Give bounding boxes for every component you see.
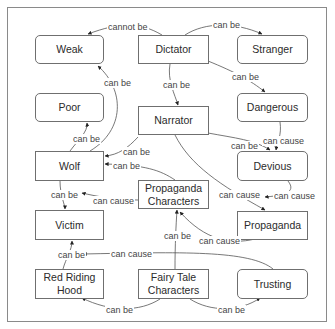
node-narrator[interactable]: Narrator [138, 106, 209, 135]
node-weak[interactable]: Weak [35, 35, 104, 64]
node-label: Fairy Tale Characters [139, 271, 208, 297]
edge-label: can be [230, 141, 259, 151]
node-label: Dangerous [247, 101, 298, 114]
edge-label: can be [212, 20, 241, 30]
node-label: Victim [55, 219, 83, 232]
node-label: Dictator [155, 43, 191, 56]
edge-label: can be [57, 250, 86, 260]
edge-label: can be [122, 147, 151, 157]
node-red-riding-hood[interactable]: Red Riding Hood [35, 269, 104, 299]
node-wolf[interactable]: Wolf [35, 151, 104, 181]
node-label: Wolf [59, 160, 80, 173]
edge-label: can cause [218, 190, 261, 200]
node-label: Propaganda [244, 219, 301, 232]
node-propaganda-characters[interactable]: Propaganda Characters [138, 180, 209, 209]
edge-label: can cause [198, 236, 241, 246]
node-propaganda[interactable]: Propaganda [237, 211, 308, 240]
edge-label: can be [112, 161, 141, 171]
edge-label: can be [72, 134, 101, 144]
node-dangerous[interactable]: Dangerous [237, 93, 308, 122]
edge-label: can be [217, 305, 246, 315]
node-devious[interactable]: Devious [237, 151, 308, 181]
edge-label: can cause [92, 196, 135, 206]
node-victim[interactable]: Victim [35, 210, 104, 240]
node-poor[interactable]: Poor [35, 93, 104, 122]
node-label: Narrator [154, 114, 193, 127]
node-label: Propaganda Characters [139, 182, 208, 208]
node-label: Red Riding Hood [36, 271, 103, 297]
edge-label: can cause [262, 136, 305, 146]
node-trusting[interactable]: Trusting [237, 269, 308, 299]
edge-label: can be [105, 305, 134, 315]
node-fairy-tale-characters[interactable]: Fairy Tale Characters [138, 269, 209, 299]
node-dictator[interactable]: Dictator [138, 35, 209, 64]
edge-label: can cause [110, 249, 153, 259]
edge-label: can be [50, 190, 79, 200]
edge-label: can be [162, 80, 191, 90]
edge-label: can be [103, 78, 132, 88]
node-stranger[interactable]: Stranger [237, 35, 308, 64]
node-label: Trusting [254, 278, 292, 291]
node-label: Poor [58, 101, 80, 114]
edge-label: can be [163, 231, 192, 241]
node-label: Weak [56, 43, 83, 56]
edge-label: can cause [273, 191, 316, 201]
node-label: Devious [254, 160, 292, 173]
edge-label: can be [231, 72, 260, 82]
edge-label: cannot be [107, 22, 149, 32]
node-label: Stranger [252, 43, 292, 56]
